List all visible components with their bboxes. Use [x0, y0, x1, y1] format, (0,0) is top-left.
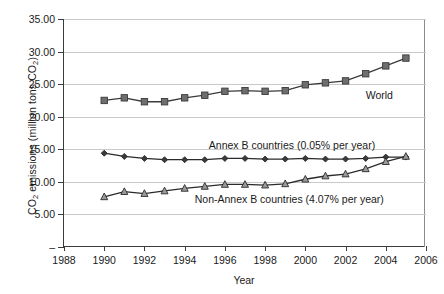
y-tick-label-5: 5.00 [35, 208, 55, 220]
data-point [121, 188, 128, 195]
data-point [403, 55, 409, 61]
data-point [282, 156, 288, 162]
plot-area: –5.0010.0015.0020.0025.0030.0035.00 1988… [63, 19, 425, 247]
x-tick-label-1996: 1996 [213, 254, 236, 266]
x-tick-label-1992: 1992 [133, 254, 156, 266]
series-line-2 [104, 156, 406, 196]
x-tick-2006 [426, 246, 427, 251]
x-tick-label-1988: 1988 [52, 254, 75, 266]
data-point [141, 155, 147, 161]
y-tick-label-25: 25.00 [29, 78, 55, 90]
data-point [383, 63, 389, 69]
data-point [101, 150, 107, 156]
data-point [222, 88, 228, 94]
data-point [322, 80, 328, 86]
data-point [161, 99, 167, 105]
series-0 [101, 55, 409, 105]
data-point [181, 95, 187, 101]
y-tick-label-0: – [49, 241, 55, 253]
x-tick-label-2002: 2002 [334, 254, 357, 266]
data-point [322, 156, 328, 162]
y-tick-label-10: 10.00 [29, 176, 55, 188]
y-tick-label-30: 30.00 [29, 46, 55, 58]
y-axis-title-subscript-1: 2 [31, 195, 40, 199]
data-point [302, 155, 308, 161]
data-point [101, 97, 107, 103]
data-point [202, 92, 208, 98]
data-point [342, 78, 348, 84]
data-point [222, 155, 228, 161]
data-point [343, 156, 349, 162]
data-point [162, 157, 168, 163]
series-annotation-2: Non-Annex B countries (4.07% per year) [195, 193, 384, 205]
data-point [182, 157, 188, 163]
y-tick-label-20: 20.00 [29, 111, 55, 123]
series-line-1 [104, 153, 406, 160]
series-line-0 [104, 58, 406, 102]
data-point [262, 156, 268, 162]
data-point [362, 71, 368, 77]
x-axis-title: Year [63, 274, 425, 286]
y-axis-title-subscript-2: 2 [31, 61, 40, 65]
data-point [363, 155, 369, 161]
data-point [141, 99, 147, 105]
x-tick-label-1990: 1990 [93, 254, 116, 266]
data-point [121, 95, 127, 101]
x-tick-label-2000: 2000 [294, 254, 317, 266]
data-point [242, 155, 248, 161]
x-tick-label-1998: 1998 [253, 254, 276, 266]
data-point [121, 153, 127, 159]
x-tick-label-2004: 2004 [374, 254, 397, 266]
chart-figure: CO2 emissions (million tons CO2) Year –5… [0, 0, 444, 294]
data-point [242, 87, 248, 93]
y-tick-label-15: 15.00 [29, 143, 55, 155]
data-point [202, 157, 208, 163]
data-point [262, 88, 268, 94]
y-tick-label-35: 35.00 [29, 13, 55, 25]
data-point [302, 82, 308, 88]
series-1 [101, 150, 409, 163]
series-layer [64, 19, 426, 247]
data-point [282, 87, 288, 93]
series-annotation-0: World [366, 89, 393, 101]
x-tick-label-2006: 2006 [414, 254, 437, 266]
series-annotation-1: Annex B countries (0.05% per year) [209, 139, 375, 151]
x-tick-label-1994: 1994 [173, 254, 196, 266]
